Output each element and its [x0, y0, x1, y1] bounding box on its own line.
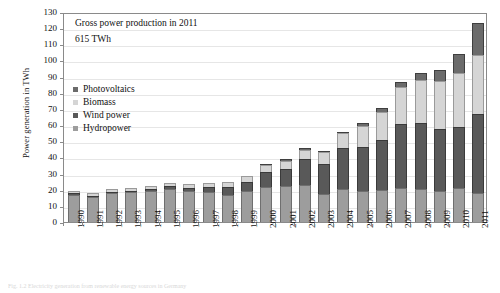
bar-column: [260, 12, 272, 222]
bar-segment-wind: [453, 127, 465, 188]
x-tick-label: 2004: [346, 210, 355, 228]
y-tick-label: 20: [11, 186, 57, 195]
y-tick-label: 110: [11, 40, 57, 49]
x-tick-label: 2006: [385, 210, 394, 228]
bar-segment-pv: [453, 54, 465, 73]
x-tick-mark: [429, 223, 430, 226]
x-tick-label: 2002: [308, 210, 317, 228]
bar-column: [299, 12, 311, 222]
bar-segment-pv: [472, 23, 484, 55]
bar-column: [280, 12, 292, 222]
renewable-generation-chart: Power generation in TWh 1301201101009080…: [0, 0, 500, 293]
x-tick-mark: [198, 223, 199, 226]
bar-segment-wind: [280, 169, 292, 186]
x-tick-label: 1992: [115, 210, 124, 228]
x-tick-mark: [140, 223, 141, 226]
x-tick-label: 1996: [192, 210, 201, 228]
x-tick-mark: [333, 223, 334, 226]
bar-column: [453, 12, 465, 222]
legend-label: Wind power: [83, 109, 130, 122]
bar-segment-wind: [260, 172, 272, 187]
x-tick-label: 2008: [424, 210, 433, 228]
annotation-line-1: 615 TWh: [75, 31, 198, 47]
x-tick-mark: [159, 223, 160, 226]
x-tick-label: 2011: [481, 210, 490, 228]
legend-swatch-icon: [73, 100, 78, 105]
x-tick-label: 2003: [327, 210, 336, 228]
y-tick-label: 100: [11, 56, 57, 65]
legend-label: Photovoltaics: [83, 83, 135, 96]
bar-column: [337, 12, 349, 222]
y-tick-label: 90: [11, 73, 57, 82]
bar-column: [376, 12, 388, 222]
x-tick-mark: [275, 223, 276, 226]
bar-segment-wind: [337, 148, 349, 189]
x-tick-label: 2007: [404, 210, 413, 228]
bar-column: [318, 12, 330, 222]
legend-item-wind-power[interactable]: Wind power: [73, 109, 135, 122]
bar-segment-bio: [260, 165, 272, 172]
x-tick-label: 1993: [134, 210, 143, 228]
x-tick-label: 1991: [96, 210, 105, 228]
x-tick-mark: [63, 223, 64, 226]
y-tick-label: 10: [11, 202, 57, 211]
legend-item-biomass[interactable]: Biomass: [73, 96, 135, 109]
bar-segment-bio: [376, 112, 388, 140]
legend-item-hydropower[interactable]: Hydropower: [73, 122, 135, 135]
legend-swatch-icon: [73, 113, 78, 118]
x-tick-mark: [468, 223, 469, 226]
y-tick-label: 80: [11, 89, 57, 98]
y-tick-label: 130: [11, 8, 57, 17]
x-tick-label: 2000: [269, 210, 278, 228]
y-tick-label: 120: [11, 24, 57, 33]
bar-column: [472, 12, 484, 222]
x-tick-label: 1994: [154, 210, 163, 228]
x-tick-label: 2001: [289, 210, 298, 228]
x-tick-mark: [82, 223, 83, 226]
bar-segment-wind: [299, 159, 311, 185]
y-tick-label: 60: [11, 121, 57, 130]
bar-segment-bio: [415, 80, 427, 124]
x-tick-mark: [179, 223, 180, 226]
x-tick-mark: [121, 223, 122, 226]
legend-label: Hydropower: [83, 122, 131, 135]
x-tick-mark: [448, 223, 449, 226]
x-tick-mark: [371, 223, 372, 226]
x-tick-label: 1999: [250, 210, 259, 228]
annotation-line-0: Gross power production in 2011: [75, 15, 198, 31]
legend-swatch-icon: [73, 87, 78, 92]
bar-segment-wind: [241, 182, 253, 191]
bar-column: [222, 12, 234, 222]
bar-segment-wind: [472, 114, 484, 193]
y-tick-label: 30: [11, 170, 57, 179]
x-tick-mark: [314, 223, 315, 226]
bar-column: [203, 12, 215, 222]
bar-segment-bio: [337, 133, 349, 148]
x-tick-mark: [102, 223, 103, 226]
legend-item-photovoltaics[interactable]: Photovoltaics: [73, 83, 135, 96]
bar-segment-pv: [415, 73, 427, 80]
bar-segment-wind: [434, 129, 446, 191]
bar-segment-bio: [472, 55, 484, 114]
chart-legend: PhotovoltaicsBiomassWind powerHydropower: [73, 83, 135, 135]
bar-segment-wind: [222, 187, 234, 194]
x-tick-mark: [410, 223, 411, 226]
bar-segment-bio: [434, 81, 446, 129]
x-tick-label: 1990: [77, 210, 86, 228]
y-tick-label: 40: [11, 153, 57, 162]
bar-segment-bio: [395, 87, 407, 124]
x-tick-label: 2010: [462, 210, 471, 228]
bar-segment-bio: [280, 161, 292, 169]
chart-annotation: Gross power production in 2011615 TWh: [75, 15, 198, 47]
bar-segment-bio: [299, 150, 311, 160]
x-tick-label: 1998: [231, 210, 240, 228]
bar-segment-wind: [376, 140, 388, 190]
x-tick-label: 1995: [173, 210, 182, 228]
x-tick-label: 2009: [443, 210, 452, 228]
bar-column: [395, 12, 407, 222]
bar-column: [434, 12, 446, 222]
x-tick-mark: [352, 223, 353, 226]
bar-segment-wind: [395, 124, 407, 188]
x-tick-mark: [294, 223, 295, 226]
bar-segment-wind: [415, 123, 427, 189]
